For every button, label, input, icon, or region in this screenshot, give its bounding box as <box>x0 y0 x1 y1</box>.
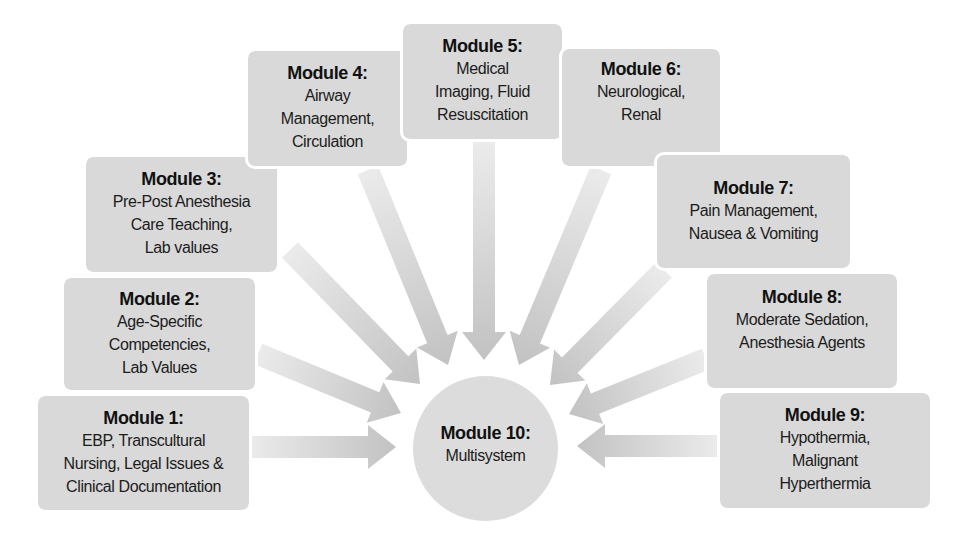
module-2-box: Module 2: Age-Specific Competencies, Lab… <box>64 278 255 390</box>
module-9-title: Module 9: <box>785 404 865 426</box>
arrow-m5-to-m10-icon <box>462 142 506 360</box>
module-2-description: Age-Specific Competencies, Lab Values <box>109 310 211 379</box>
module-4-description: Airway Management, Circulation <box>281 84 374 153</box>
module-4-title: Module 4: <box>287 62 367 84</box>
module-9-box: Module 9: Hypothermia, Malignant Hyperth… <box>720 393 930 508</box>
module-5-title: Module 5: <box>442 35 522 57</box>
module-4-box: Module 4: Airway Management, Circulation <box>248 51 407 166</box>
module-10-title: Module 10: <box>440 422 530 444</box>
module-8-title: Module 8: <box>762 286 842 308</box>
module-8-box: Module 8: Moderate Sedation, Anesthesia … <box>707 274 897 388</box>
module-10-hub: Module 10: Multisystem <box>413 376 558 521</box>
module-1-title: Module 1: <box>103 407 183 429</box>
module-6-description: Neurological, Renal <box>597 80 685 126</box>
module-7-description: Pain Management, Nausea & Vomiting <box>689 199 818 245</box>
module-7-title: Module 7: <box>713 177 793 199</box>
module-3-box: Module 3: Pre-Post Anesthesia Care Teach… <box>86 157 277 272</box>
arrow-m7-to-m10-icon <box>550 262 672 385</box>
module-1-description: EBP, Transcultural Nursing, Legal Issues… <box>64 429 224 498</box>
module-10-description: Multisystem <box>445 444 525 467</box>
module-9-description: Hypothermia, Malignant Hyperthermia <box>779 426 870 495</box>
module-3-description: Pre-Post Anesthesia Care Teaching, Lab v… <box>113 190 250 259</box>
module-diagram: Module 1: EBP, Transcultural Nursing, Le… <box>0 0 961 541</box>
module-5-box: Module 5: Medical Imaging, Fluid Resusci… <box>403 24 562 139</box>
module-8-description: Moderate Sedation, Anesthesia Agents <box>736 308 868 354</box>
module-7-box: Module 7: Pain Management, Nausea & Vomi… <box>657 155 850 268</box>
module-5-description: Medical Imaging, Fluid Resuscitation <box>435 57 530 126</box>
module-1-box: Module 1: EBP, Transcultural Nursing, Le… <box>38 396 249 510</box>
module-2-title: Module 2: <box>119 288 199 310</box>
module-6-box: Module 6: Neurological, Renal <box>562 49 720 166</box>
module-6-title: Module 6: <box>601 58 681 80</box>
arrow-m9-to-m10-icon <box>577 424 718 468</box>
module-3-title: Module 3: <box>141 168 221 190</box>
arrow-m1-to-m10-icon <box>250 425 396 469</box>
